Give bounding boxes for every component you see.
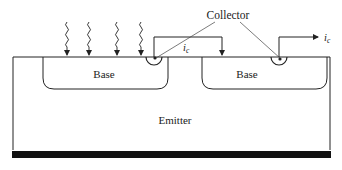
base-well-right <box>202 57 327 89</box>
collector-label: Collector <box>207 9 250 21</box>
diagram-canvas: Collector Base Base Emitter ic ic <box>0 0 342 170</box>
current-label-inner: ic <box>183 42 190 55</box>
emitter-body <box>13 57 330 150</box>
output-wire <box>279 37 318 57</box>
substrate-bar <box>12 151 331 158</box>
base-label-left: Base <box>93 68 115 80</box>
current-label-output: ic <box>324 32 331 45</box>
emitter-label: Emitter <box>159 114 192 126</box>
phototransistor-diagram: Collector Base Base Emitter ic ic <box>0 0 342 170</box>
collector-dot-left <box>153 56 156 59</box>
light-ray-icon <box>140 22 143 55</box>
collector-leaders <box>156 22 281 59</box>
light-ray-icon <box>116 22 119 55</box>
collector-dot-right <box>278 57 281 60</box>
current-subscript: c <box>327 36 331 45</box>
light-rays <box>66 22 143 55</box>
current-subscript: c <box>186 46 190 55</box>
base-label-right: Base <box>236 68 258 80</box>
light-ray-icon <box>66 22 69 55</box>
light-ray-icon <box>88 22 91 55</box>
